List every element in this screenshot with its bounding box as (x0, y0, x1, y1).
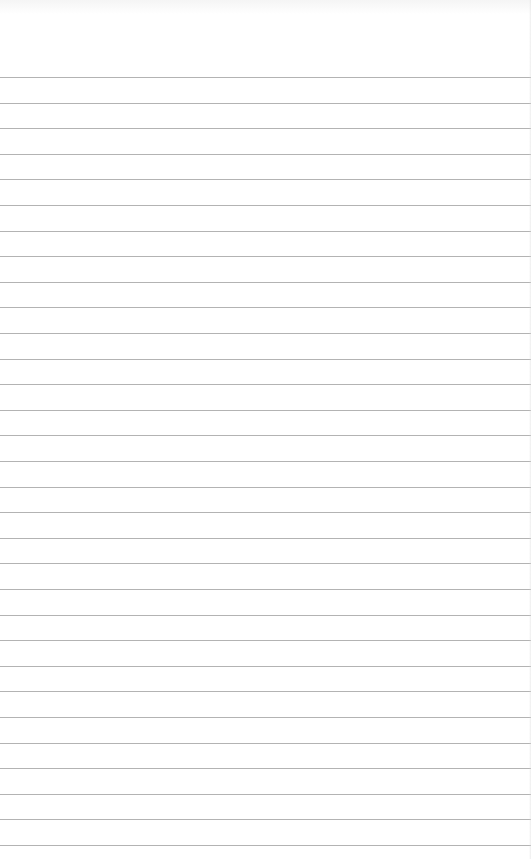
ruled-line (0, 77, 531, 78)
ruled-line (0, 512, 531, 513)
ruled-line (0, 282, 531, 283)
ruled-line (0, 743, 531, 744)
ruled-line (0, 589, 531, 590)
ruled-line (0, 794, 531, 795)
ruled-line (0, 845, 531, 846)
lined-paper-page (0, 0, 531, 859)
ruled-line (0, 717, 531, 718)
ruled-line (0, 359, 531, 360)
ruled-line (0, 819, 531, 820)
ruled-line (0, 128, 531, 129)
top-edge-shadow (0, 0, 531, 14)
ruled-line (0, 615, 531, 616)
ruled-line (0, 487, 531, 488)
ruled-line (0, 256, 531, 257)
ruled-line (0, 435, 531, 436)
ruled-line (0, 640, 531, 641)
ruled-line (0, 563, 531, 564)
ruled-line (0, 410, 531, 411)
ruled-line (0, 768, 531, 769)
ruled-line (0, 205, 531, 206)
ruled-line (0, 179, 531, 180)
ruled-line (0, 231, 531, 232)
ruled-line (0, 666, 531, 667)
ruled-line (0, 384, 531, 385)
ruled-line (0, 103, 531, 104)
ruled-line (0, 461, 531, 462)
ruled-line (0, 154, 531, 155)
ruled-line (0, 691, 531, 692)
ruled-line (0, 333, 531, 334)
ruled-line (0, 538, 531, 539)
ruled-line (0, 307, 531, 308)
